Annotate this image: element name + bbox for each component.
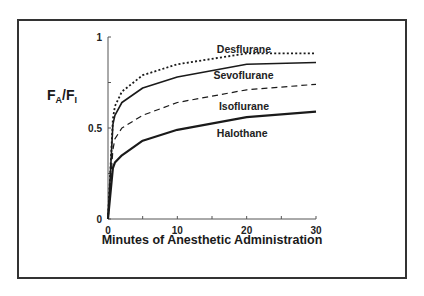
series-line-isoflurane: [108, 84, 316, 219]
series-line-desflurane: [108, 53, 316, 219]
y-tick-label: 0.5: [88, 123, 102, 134]
y-tick-label: 1: [96, 32, 102, 43]
series-label-halothane: Halothane: [217, 127, 268, 139]
line-chart: 00.510102030 DesfluraneSevofluraneIsoflu…: [0, 0, 424, 296]
series-label-desflurane: Desflurane: [217, 43, 271, 55]
series-line-sevoflurane: [108, 63, 316, 220]
series-label-sevoflurane: Sevoflurane: [213, 69, 273, 81]
series-lines: [108, 53, 316, 219]
y-tick-label: 0: [96, 214, 102, 225]
series-line-halothane: [108, 112, 316, 219]
series-label-isoflurane: Isoflurane: [219, 100, 269, 112]
y-axis-title: FA/FI: [47, 87, 77, 105]
x-axis-title: Minutes of Anesthetic Administration: [102, 233, 323, 247]
series-labels: DesfluraneSevofluraneIsofluraneHalothane: [213, 43, 273, 140]
